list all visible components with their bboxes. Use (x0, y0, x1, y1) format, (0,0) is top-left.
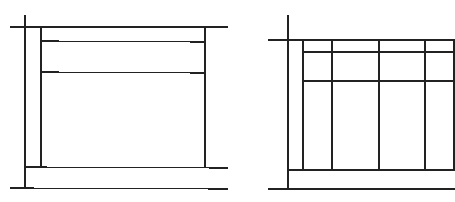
left-layout-wireframe (10, 15, 228, 189)
left-layout-wireframe-bottom-rule (10, 188, 228, 189)
left-layout-wireframe-header-divider-2 (41, 72, 205, 73)
left-layout-wireframe-header-divider-1 (41, 41, 205, 42)
right-table-wireframe (268, 15, 455, 189)
diagram-canvas (0, 0, 455, 202)
left-layout-wireframe-footer-top-rule (25, 167, 228, 168)
